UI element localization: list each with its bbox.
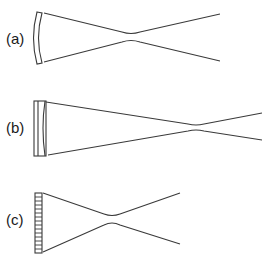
panel-c xyxy=(35,193,180,253)
beam-c-lower xyxy=(43,223,180,252)
panel-a xyxy=(34,12,221,64)
curved-mirror-icon xyxy=(34,12,43,64)
beam-b-upper xyxy=(46,102,262,125)
beam-c-upper xyxy=(43,193,180,216)
segmented-array-icon xyxy=(35,193,42,253)
panel-b xyxy=(34,101,262,156)
diagram-canvas xyxy=(0,0,276,258)
beam-a-lower xyxy=(44,41,220,63)
beam-b-lower xyxy=(48,130,262,155)
beam-a-upper xyxy=(44,13,220,34)
